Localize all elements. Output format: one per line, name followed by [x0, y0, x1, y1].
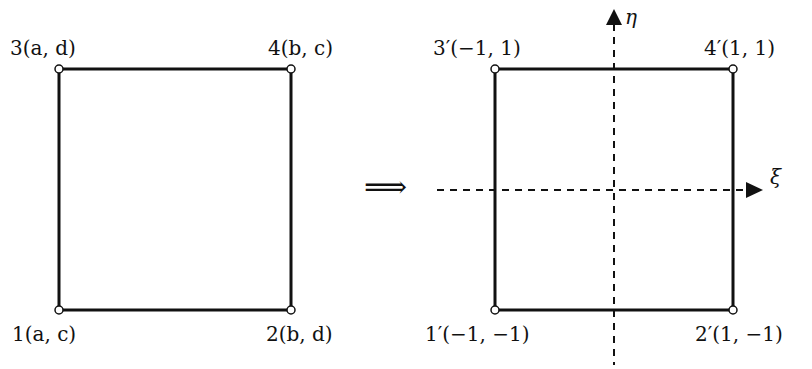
right-square: ξ η 3′(−1, 1) 4′(1, 1) 1′(−1, −1) 2′(1, …: [425, 5, 783, 365]
node-4p-marker: [729, 65, 737, 73]
node-4-label: 4(b, c): [268, 36, 333, 60]
xi-axis-arrowhead-icon: [746, 182, 763, 198]
diagram-canvas: 3(a, d) 4(b, c) 1(a, c) 2(b, d) ⟹ ξ η 3′…: [0, 0, 812, 369]
node-3p-label: 3′(−1, 1): [433, 36, 521, 60]
node-3-marker: [55, 65, 63, 73]
node-2-label: 2(b, d): [266, 322, 333, 346]
node-1-marker: [55, 306, 63, 314]
left-square: 3(a, d) 4(b, c) 1(a, c) 2(b, d): [10, 36, 333, 346]
node-3-label: 3(a, d): [10, 36, 76, 60]
left-square-outline: [59, 69, 291, 310]
node-3p-marker: [491, 65, 499, 73]
node-2p-marker: [729, 306, 737, 314]
node-1-label: 1(a, c): [12, 322, 76, 346]
node-1p-label: 1′(−1, −1): [425, 322, 530, 346]
eta-axis-label: η: [625, 5, 637, 29]
node-4-marker: [287, 65, 295, 73]
xi-axis-label: ξ: [770, 165, 782, 189]
node-1p-marker: [491, 306, 499, 314]
node-2-marker: [287, 306, 295, 314]
eta-axis-arrowhead-icon: [606, 9, 622, 25]
mapping-arrow-icon: ⟹: [364, 169, 407, 204]
node-2p-label: 2′(1, −1): [695, 322, 783, 346]
node-4p-label: 4′(1, 1): [704, 36, 775, 60]
